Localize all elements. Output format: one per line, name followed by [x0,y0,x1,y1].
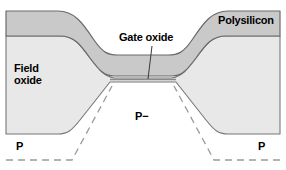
label-substrate-p-minus: P− [135,111,148,123]
label-p-well-left: P [16,141,23,153]
label-gate-oxide: Gate oxide [119,32,173,44]
label-field-oxide-line1: Field [14,63,42,75]
device-cross-section-figure: Polysilicon Gate oxide Field oxide P− P … [0,0,286,170]
label-polysilicon: Polysilicon [218,15,274,27]
label-p-well-right: P [258,141,265,153]
label-field-oxide: Field oxide [14,63,42,86]
label-field-oxide-line2: oxide [14,75,42,87]
